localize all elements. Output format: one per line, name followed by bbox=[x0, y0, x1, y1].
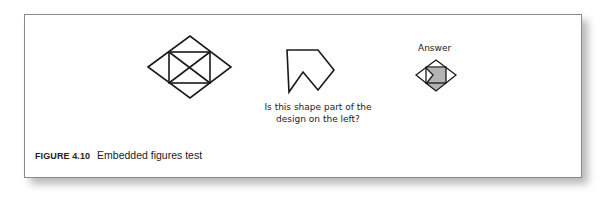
figure-title: Embedded figures test bbox=[97, 149, 202, 161]
complex-design bbox=[148, 36, 231, 98]
question-text: Is this shape part of the design on the … bbox=[258, 101, 378, 125]
answer-label: Answer bbox=[418, 43, 451, 53]
test-shape bbox=[287, 50, 334, 92]
figure-caption: FIGURE 4.10 Embedded figures test bbox=[35, 149, 202, 161]
question-line-1: Is this shape part of the bbox=[258, 101, 378, 113]
question-line-2: design on the left? bbox=[258, 113, 378, 125]
answer-design bbox=[416, 60, 456, 91]
figure-drawings bbox=[0, 0, 613, 197]
figure-number: FIGURE 4.10 bbox=[35, 151, 90, 161]
